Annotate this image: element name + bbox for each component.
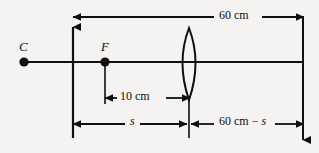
dimension-image-label: 60 cm − s [219, 115, 266, 127]
point-c-label: C [19, 40, 28, 53]
point-c-marker [19, 57, 28, 66]
point-f-label: F [101, 40, 109, 53]
dimension-focal-label: 10 cm [120, 90, 150, 102]
dimension-image-text: 60 cm − s [219, 114, 266, 128]
dimension-object-label: s [130, 115, 135, 127]
biconvex-lens [183, 28, 196, 100]
image-distance-variable: s [261, 114, 266, 128]
dimension-total-label: 60 cm [219, 9, 249, 21]
diagram-canvas [0, 0, 319, 153]
optics-diagram: C F 60 cm 10 cm s 60 cm − s [0, 0, 319, 153]
